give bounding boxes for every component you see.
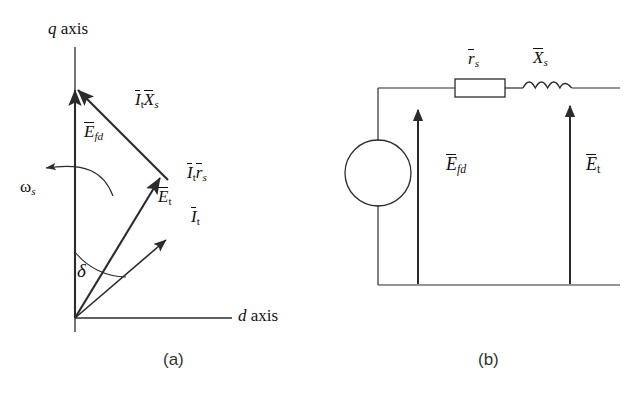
label-Xs-circuit: Xs [533,49,548,68]
d-axis-label: d axis [238,307,278,324]
q-axis-text: axis [61,19,88,38]
label-E-fd-circuit: Efd [446,155,466,176]
I-t-base: I [191,208,197,225]
circuit-E-fd-base: E [446,155,457,173]
Xs-subscript: s [543,57,547,68]
voltage-source-circle [345,140,411,206]
It-rs-r: r [196,164,203,181]
E-t-base: E [158,188,168,205]
rs-subscript: s [475,58,479,69]
E-t-subscript: t [168,196,171,207]
rs-base: r [468,50,475,67]
label-E-t-phasor: Et [158,188,172,207]
label-It-Xs: ItXs [135,91,159,110]
label-E-t-circuit: Et [586,155,600,176]
circuit-E-fd-subscript: fd [457,164,466,176]
label-E-fd-phasor: Efd [84,123,103,142]
resistor-box [455,79,505,97]
q-axis-symbol: q [48,19,57,38]
d-axis-symbol: d [238,306,247,325]
E-fd-base: E [84,123,94,140]
I-t-subscript: t [197,216,200,227]
figure-root: q axis d axis ωs δ Efd ItXs Itrs Et It r… [0,0,626,402]
vector-E-t [75,178,160,318]
It-Xs-I: I [135,91,141,108]
E-fd-subscript: fd [94,131,103,142]
It-rs-I: I [187,164,193,181]
delta-symbol: δ [77,260,86,281]
circuit-wires [378,88,620,285]
It-Xs-X-subscript: s [154,99,158,110]
q-axis-label: q axis [48,20,88,37]
caption-b: (b) [478,351,499,368]
omega-subscript: s [31,186,35,197]
It-rs-r-subscript: s [202,172,206,183]
inductor-coil [523,82,572,88]
omega-s-label: ωs [20,178,36,197]
vector-I-t [75,240,166,318]
It-Xs-X: X [144,91,154,108]
label-rs-circuit: rs [468,50,479,69]
Xs-base: X [533,49,543,66]
label-It-rs: Itrs [187,164,207,183]
omega-rotation-arrow [46,166,113,196]
label-I-t-phasor: It [191,208,200,227]
d-axis-text: axis [251,306,278,325]
circuit-E-t-base: E [586,155,597,173]
circuit-E-t-subscript: t [597,164,600,176]
delta-label: δ [77,261,86,280]
omega-symbol: ω [20,177,31,196]
caption-a: (a) [163,351,184,368]
